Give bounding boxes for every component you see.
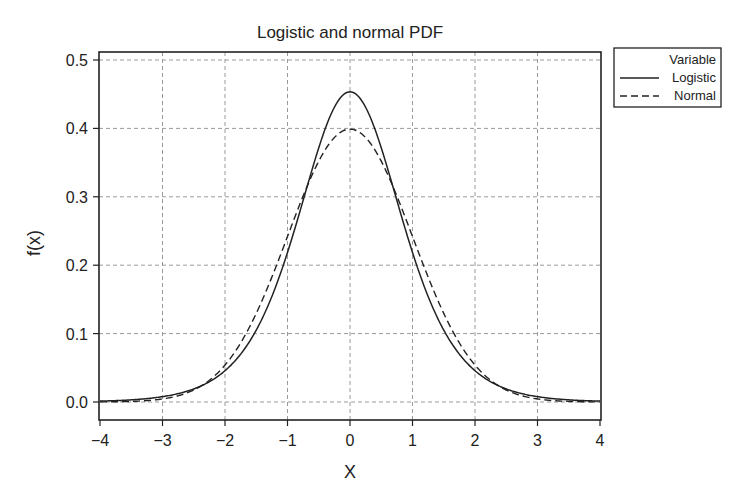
y-tick-label: 0.2 — [66, 257, 88, 274]
x-tick-label: −2 — [216, 432, 234, 449]
y-axis: 0.00.10.20.30.40.5 — [66, 52, 99, 411]
y-tick-label: 0.5 — [66, 52, 88, 69]
x-tick-label: 4 — [596, 432, 605, 449]
legend: Variable Logistic Normal — [614, 48, 721, 107]
x-axis-label: X — [344, 462, 356, 482]
x-tick-label: −3 — [153, 432, 171, 449]
chart-title: Logistic and normal PDF — [257, 23, 443, 42]
x-axis: −4−3−2−101234 — [91, 420, 605, 449]
legend-title: Variable — [669, 52, 716, 67]
y-tick-label: 0.0 — [66, 394, 88, 411]
x-tick-label: 0 — [346, 432, 355, 449]
y-tick-label: 0.4 — [66, 120, 88, 137]
grid-lines — [99, 52, 601, 420]
x-tick-label: 1 — [408, 432, 417, 449]
x-tick-label: −4 — [91, 432, 109, 449]
legend-label-logistic: Logistic — [672, 70, 717, 85]
legend-label-normal: Normal — [674, 88, 716, 103]
chart: Logistic and normal PDF 0.00.10.20.30.40… — [0, 0, 741, 502]
x-tick-label: 3 — [533, 432, 542, 449]
y-tick-label: 0.3 — [66, 189, 88, 206]
y-tick-label: 0.1 — [66, 326, 88, 343]
x-tick-label: 2 — [471, 432, 480, 449]
y-axis-label: f(x) — [24, 230, 44, 256]
x-tick-label: −1 — [278, 432, 296, 449]
